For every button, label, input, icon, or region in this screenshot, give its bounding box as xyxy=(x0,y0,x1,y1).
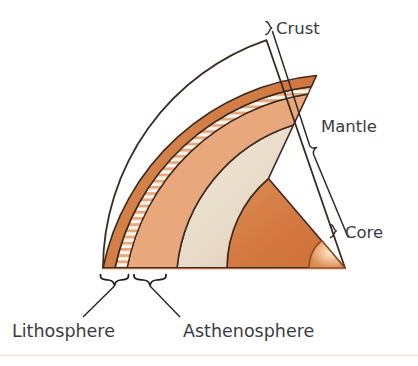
lithosphere-leader xyxy=(83,286,115,317)
bottom-braces xyxy=(83,275,180,318)
earth-wedge xyxy=(103,40,345,268)
lithosphere-brace xyxy=(100,275,128,286)
asthenosphere-leader xyxy=(150,286,180,317)
mantle-label: Mantle xyxy=(321,117,377,136)
asthenosphere-label: Asthenosphere xyxy=(183,321,314,341)
crust-bracket xyxy=(266,22,272,35)
crust-label: Crust xyxy=(276,19,320,38)
core-label: Core xyxy=(345,223,383,242)
lithosphere-label: Lithosphere xyxy=(12,321,115,341)
earth-layers-diagram: Crust Mantle Core Lithosphere Asthenosph… xyxy=(0,0,418,366)
asthenosphere-brace xyxy=(134,275,166,286)
